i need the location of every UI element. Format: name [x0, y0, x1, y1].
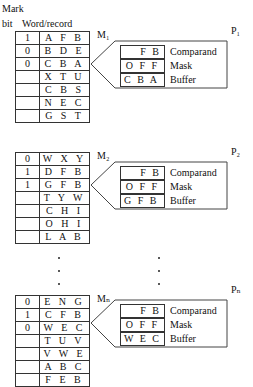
memory-label-n: Mₙ — [97, 293, 110, 304]
table-row: 0B D E — [16, 45, 90, 58]
mask-label-1: Mask — [170, 60, 192, 72]
table-row: 0E N G — [16, 296, 90, 309]
mask-register-2: O F F — [120, 180, 165, 194]
memory-table-2: 0W X Y 1D F B 1G F B T Y W C H I O H I L… — [15, 152, 90, 244]
ellipsis-dot — [58, 283, 60, 285]
table-row: 1C F B — [16, 309, 90, 322]
table-row: 1G F B — [16, 179, 90, 192]
buffer-label-2: Buffer — [170, 195, 196, 207]
ellipsis-dot — [158, 270, 160, 272]
table-row: 1D F B — [16, 166, 90, 179]
memory-label-1: M₁ — [97, 29, 109, 40]
ellipsis-dot — [58, 270, 60, 272]
buffer-register-1: C B A — [120, 73, 165, 87]
table-row: C B S — [16, 84, 90, 97]
memory-table-n: 0E N G 1C F B 0W E C T U V V W E A B C F… — [15, 295, 90, 387]
table-row: A B C — [16, 361, 90, 374]
ellipsis-dot — [158, 257, 160, 259]
buffer-label-1: Buffer — [170, 74, 196, 86]
processor-label-n: Pₙ — [231, 284, 241, 295]
mask-register-n: O F F — [120, 318, 165, 332]
table-row: 0C B A — [16, 58, 90, 71]
mask-label-n: Mask — [170, 319, 192, 331]
comparand-register-n: F B — [120, 304, 165, 318]
table-row: 0W E C — [16, 322, 90, 335]
table-row: G S T — [16, 110, 90, 123]
memory-table-1: 1A F B 0B D E 0C B A X T U C B S N E C G… — [15, 31, 90, 123]
table-row: 1A F B — [16, 32, 90, 45]
buffer-register-n: W E C — [120, 332, 165, 346]
comparand-register-1: F B — [120, 45, 165, 59]
table-row: T U V — [16, 335, 90, 348]
comparand-label-2: Comparand — [170, 167, 217, 179]
buffer-label-n: Buffer — [170, 333, 196, 345]
comparand-register-2: F B — [120, 166, 165, 180]
comparand-label-1: Comparand — [170, 46, 217, 58]
buffer-register-2: G F B — [120, 194, 165, 208]
table-row: X T U — [16, 71, 90, 84]
mask-label-2: Mask — [170, 181, 192, 193]
table-row: T Y W — [16, 192, 90, 205]
memory-label-2: M₂ — [97, 150, 109, 161]
table-row: F E B — [16, 374, 90, 387]
table-row: V W E — [16, 348, 90, 361]
table-row: C H I — [16, 205, 90, 218]
table-row: L A B — [16, 231, 90, 244]
table-row: N E C — [16, 97, 90, 110]
comparand-label-n: Comparand — [170, 305, 217, 317]
ellipsis-dot — [58, 257, 60, 259]
table-row: 0W X Y — [16, 153, 90, 166]
ellipsis-dot — [158, 283, 160, 285]
table-row: O H I — [16, 218, 90, 231]
mask-register-1: O F F — [120, 59, 165, 73]
processor-label-2: P₂ — [231, 146, 240, 157]
processor-label-1: P₁ — [231, 25, 240, 36]
